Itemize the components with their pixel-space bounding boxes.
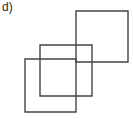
squares-group [25, 11, 128, 112]
figure-panel: d) [0, 0, 133, 119]
square-bottom-left [25, 59, 76, 112]
square-middle [40, 45, 92, 96]
overlapping-squares-diagram [0, 0, 133, 119]
square-top-right [76, 11, 128, 62]
